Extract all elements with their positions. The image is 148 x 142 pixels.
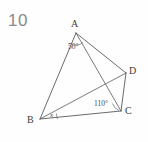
- vertex-label-c: C: [125, 106, 132, 116]
- angle-arc-B: [57, 114, 58, 120]
- angle-label-c: 110°: [94, 100, 108, 108]
- segment-DA: [76, 33, 126, 73]
- vertex-label-d: D: [129, 66, 136, 76]
- vertex-label-b: B: [27, 115, 34, 125]
- geometry-figure: 10 A B C D 50° 110° x: [0, 0, 148, 142]
- angle-arc-C: [113, 104, 120, 111]
- angle-label-b: x: [50, 112, 53, 119]
- vertex-label-a: A: [71, 19, 78, 29]
- angle-label-a: 50°: [68, 43, 79, 51]
- quadrilateral-diagonals: [40, 33, 126, 119]
